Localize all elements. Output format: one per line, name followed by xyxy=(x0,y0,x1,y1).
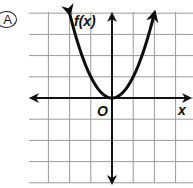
x-axis-label: x xyxy=(177,102,187,118)
answer-choice-graph: A f(x) x O xyxy=(0,0,193,188)
y-axis-label: f(x) xyxy=(74,13,96,29)
coordinate-plane: f(x) x O xyxy=(0,0,193,188)
origin-label: O xyxy=(97,103,108,119)
